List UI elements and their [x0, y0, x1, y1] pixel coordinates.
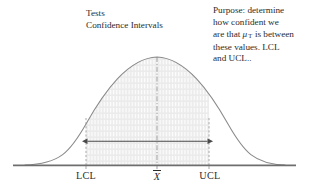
purpose-note-line-3-post: is between [253, 29, 294, 39]
tests-label-line-2: Confidence Intervals [86, 20, 163, 32]
axis-label-xbar: X [134, 170, 180, 182]
purpose-note: Purpose: determine how confident we are … [213, 5, 317, 65]
purpose-note-line-2: how confident we [213, 17, 317, 29]
xbar-glyph: X [154, 170, 161, 182]
purpose-note-line-4: these values. LCL [213, 42, 317, 54]
shaded-confidence-region [86, 50, 209, 166]
tests-label-line-1: Tests [86, 8, 163, 20]
purpose-note-line-5: and UCL.. [213, 53, 317, 65]
purpose-note-line-1: Purpose: determine [213, 5, 317, 17]
purpose-note-line-3-pre: are that [213, 29, 243, 39]
axis-label-lcl: LCL [62, 170, 110, 181]
tests-confidence-intervals-label: Tests Confidence Intervals [86, 8, 163, 31]
axis-label-ucl: UCL [186, 170, 234, 181]
purpose-note-line-3: are that μT is between [213, 29, 317, 42]
